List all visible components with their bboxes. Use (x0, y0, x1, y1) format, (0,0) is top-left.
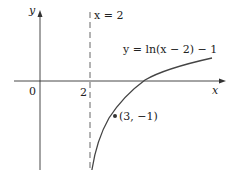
point-label: (3, −1) (119, 110, 158, 123)
asymptote-label: x = 2 (94, 9, 123, 22)
tick-label-2: 2 (80, 86, 87, 99)
equation-label: y = ln(x − 2) − 1 (122, 43, 217, 56)
origin-label: 0 (29, 85, 36, 98)
y-axis-label: y (28, 4, 36, 17)
point-marker (113, 114, 117, 118)
x-axis-arrow-icon (219, 79, 226, 84)
x-axis-label: x (212, 84, 219, 97)
log-function-graph: y x 0 2 x = 2 y = ln(x − 2) − 1 (3, −1) (0, 0, 230, 173)
y-axis-arrow-icon (38, 10, 43, 17)
